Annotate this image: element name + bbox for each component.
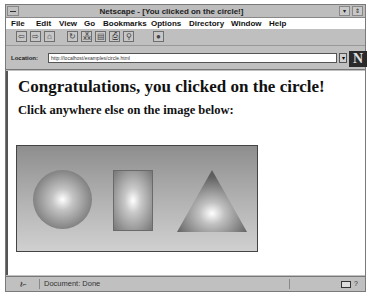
toolbar: ⇦ ⇨ ⌂ ↻ ⁂ ▤ ⎙ ⚲ ●: [6, 29, 365, 46]
status-text: Document: Done: [44, 279, 100, 289]
menu-window[interactable]: Window: [231, 18, 262, 29]
page-heading: Congratulations, you clicked on the circ…: [18, 77, 325, 97]
menu-view[interactable]: View: [59, 18, 77, 29]
triangle-shape[interactable]: [177, 170, 247, 232]
menu-file[interactable]: File: [11, 18, 25, 29]
menu-options[interactable]: Options: [151, 18, 181, 29]
mail-icon[interactable]: [341, 281, 351, 288]
menu-bar: File Edit View Go Bookmarks Options Dire…: [6, 18, 365, 29]
url-input[interactable]: http://localhost/examples/circle.html: [48, 53, 337, 63]
menu-help[interactable]: Help: [269, 18, 286, 29]
window-title: Netscape - [You clicked on the circle!]: [6, 5, 337, 18]
images-icon[interactable]: ⁂: [81, 31, 92, 42]
restore-button[interactable]: ⇕: [352, 6, 363, 16]
page-content: Congratulations, you clicked on the circ…: [6, 71, 365, 275]
status-divider: [39, 279, 40, 289]
title-bar[interactable]: Netscape - [You clicked on the circle!] …: [6, 5, 365, 18]
menu-bookmarks[interactable]: Bookmarks: [103, 18, 147, 29]
menu-go[interactable]: Go: [84, 18, 95, 29]
find-icon[interactable]: ⚲: [123, 31, 134, 42]
minimize-button[interactable]: ▾: [339, 6, 350, 16]
open-icon[interactable]: ▤: [95, 31, 106, 42]
print-icon[interactable]: ⎙: [109, 31, 120, 42]
location-bar: Location: http://localhost/examples/circ…: [6, 48, 365, 70]
shapes-imagemap[interactable]: [16, 145, 258, 252]
status-divider: [289, 279, 290, 289]
stop-icon[interactable]: ●: [153, 31, 164, 42]
mail-status: ?: [354, 279, 358, 289]
menu-edit[interactable]: Edit: [36, 18, 51, 29]
location-label: Location:: [11, 53, 38, 63]
page-subheading: Click anywhere else on the image below:: [18, 103, 234, 118]
home-icon[interactable]: ⌂: [44, 31, 55, 42]
rectangle-shape[interactable]: [113, 170, 153, 231]
reload-icon[interactable]: ↻: [67, 31, 78, 42]
browser-window: Netscape - [You clicked on the circle!] …: [5, 4, 366, 292]
url-dropdown-button[interactable]: ▾: [339, 53, 347, 63]
back-icon[interactable]: ⇦: [16, 31, 27, 42]
netscape-logo[interactable]: N: [349, 51, 367, 67]
circle-shape[interactable]: [33, 170, 92, 229]
forward-icon[interactable]: ⇨: [30, 31, 41, 42]
security-key-icon: ⚷⌐: [19, 280, 35, 288]
status-bar: ⚷⌐ Document: Done ?: [6, 276, 365, 291]
menu-directory[interactable]: Directory: [189, 18, 224, 29]
